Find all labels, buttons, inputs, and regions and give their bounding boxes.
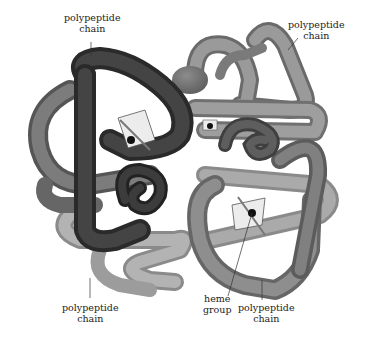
label-line: polypeptide xyxy=(238,302,295,313)
label-line: polypeptide xyxy=(62,302,119,313)
label-line: chain xyxy=(64,23,121,34)
heme-group-center xyxy=(203,120,217,130)
label-polypeptide-chain-top-left: polypeptide chain xyxy=(64,12,121,34)
label-line: chain xyxy=(288,30,345,41)
label-line: heme xyxy=(203,293,232,304)
label-heme-group: heme group xyxy=(203,293,232,315)
coil-center-right xyxy=(225,124,273,154)
label-line: chain xyxy=(238,313,295,324)
label-line: group xyxy=(203,304,232,315)
label-line: polypeptide xyxy=(64,12,121,23)
polypeptide-chain-top-left xyxy=(82,58,182,241)
hemoglobin-diagram xyxy=(0,0,367,340)
polypeptide-chain-bottom-right xyxy=(197,148,330,290)
label-polypeptide-chain-bottom-left: polypeptide chain xyxy=(62,302,119,324)
label-polypeptide-chain-top-right: polypeptide chain xyxy=(288,19,345,41)
label-line: polypeptide xyxy=(288,19,345,30)
polypeptide-chain-top-right xyxy=(195,31,319,132)
label-line: chain xyxy=(62,313,119,324)
label-polypeptide-chain-bottom-right: polypeptide chain xyxy=(238,302,295,324)
